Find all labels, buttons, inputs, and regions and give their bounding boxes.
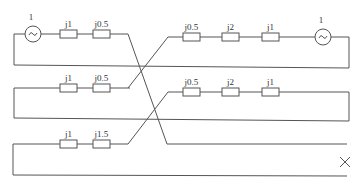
impedance-element: j0.5 — [183, 22, 200, 41]
circuit-diagram: j1j0.5j0.5j2j1j1j0.5j0.5j2j1j1j1.5 11 — [0, 0, 361, 187]
impedance-element: j0.5 — [93, 73, 110, 92]
impedance-label: j1.5 — [94, 129, 109, 139]
resistor-box-icon — [93, 84, 110, 92]
impedance-element: j2 — [222, 77, 239, 96]
resistor-box-icon — [262, 88, 279, 96]
impedance-element: j1 — [60, 73, 77, 92]
resistor-box-icon — [60, 84, 77, 92]
impedance-element: j1 — [60, 129, 77, 148]
impedance-label: j1 — [266, 22, 274, 32]
impedance-element: j1.5 — [93, 129, 110, 148]
impedance-boxes: j1j0.5j0.5j2j1j1j0.5j0.5j2j1j1j1.5 — [60, 19, 279, 148]
resistor-box-icon — [93, 30, 110, 38]
source-left: 1 — [25, 12, 41, 42]
impedance-label: j0.5 — [94, 73, 109, 83]
impedance-element: j0.5 — [183, 77, 200, 96]
impedance-element: j2 — [222, 22, 239, 41]
impedance-label: j1 — [266, 77, 274, 87]
resistor-box-icon — [222, 88, 239, 96]
resistor-box-icon — [60, 30, 77, 38]
impedance-element: j0.5 — [93, 19, 110, 38]
impedance-element: j1 — [60, 19, 77, 38]
impedance-element: j1 — [262, 77, 279, 96]
impedance-label: j0.5 — [94, 19, 109, 29]
wires — [13, 34, 349, 176]
source-right: 1 — [315, 15, 331, 45]
resistor-box-icon — [93, 140, 110, 148]
impedance-label: j1 — [64, 19, 72, 29]
impedance-label: j1 — [64, 129, 72, 139]
fault-marker — [340, 157, 350, 167]
resistor-box-icon — [60, 140, 77, 148]
impedance-label: j0.5 — [184, 77, 199, 87]
impedance-element: j1 — [262, 22, 279, 41]
resistor-box-icon — [222, 33, 239, 41]
impedance-label: j0.5 — [184, 22, 199, 32]
impedance-label: j2 — [226, 22, 234, 32]
source-voltage-label: 1 — [319, 15, 324, 25]
impedance-label: j1 — [64, 73, 72, 83]
resistor-box-icon — [262, 33, 279, 41]
resistor-box-icon — [183, 33, 200, 41]
source-voltage-label: 1 — [29, 12, 34, 22]
resistor-box-icon — [183, 88, 200, 96]
impedance-label: j2 — [226, 77, 234, 87]
